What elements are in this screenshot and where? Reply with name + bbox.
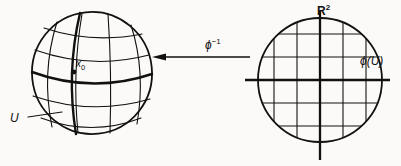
arrow-head [152, 54, 166, 61]
codomain-symbol: R [317, 4, 326, 18]
label-region-u: U [10, 112, 19, 124]
sphere-meridians [48, 14, 141, 133]
plane-group [245, 10, 395, 160]
label-codomain-r2: R2 [317, 4, 330, 17]
u-leader-line [28, 112, 62, 117]
phi-inverse-arrow-group [152, 54, 250, 61]
phi-exponent: −1 [212, 37, 221, 46]
label-image-phi-u: ϕ(U) [360, 55, 383, 67]
base-point-subscript: 0 [81, 63, 85, 72]
label-phi-inverse: ϕ−1 [205, 38, 221, 51]
label-base-point: x0 [76, 59, 85, 72]
figure-canvas: U x0 ϕ−1 R2 ϕ(U) [0, 0, 401, 166]
sphere-group [26, 6, 158, 140]
sphere-bold-parallel [32, 72, 152, 84]
phi-symbol: ϕ [205, 38, 212, 52]
diagram-svg [0, 0, 401, 166]
codomain-exponent: 2 [326, 3, 330, 12]
